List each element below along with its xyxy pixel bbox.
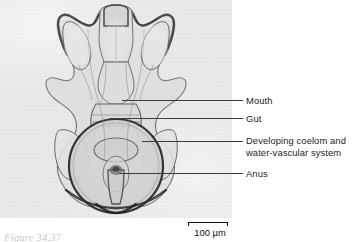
scale-bar-label: 100 µm: [186, 227, 234, 238]
label-coelom: Developing coelom and water-vascular sys…: [246, 135, 346, 158]
leader-line-coelom: [142, 141, 243, 142]
figure-caption: Figure 34.37: [4, 231, 61, 242]
label-coelom-line1: Developing coelom and: [246, 135, 346, 146]
leader-line-mouth: [122, 100, 243, 101]
label-gut: Gut: [246, 113, 261, 125]
leader-line-anus: [119, 173, 243, 174]
scale-bar: [188, 222, 228, 226]
label-anus: Anus: [246, 168, 268, 180]
specimen-drawing: [0, 0, 232, 218]
label-coelom-line2: water-vascular system: [246, 147, 341, 158]
figure-micrograph-labeled: Mouth Gut Developing coelom and water-va…: [0, 0, 357, 242]
leader-line-gut: [110, 118, 243, 119]
label-mouth: Mouth: [246, 95, 273, 107]
micrograph-image: [0, 0, 232, 218]
